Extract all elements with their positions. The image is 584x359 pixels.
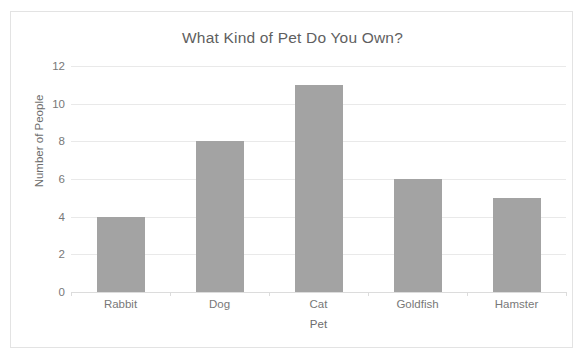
axis-baseline bbox=[71, 292, 566, 293]
plot-area: RabbitDogCatGoldfishHamster bbox=[71, 66, 566, 292]
x-axis-tick-mark bbox=[170, 292, 171, 296]
x-axis-tick-mark bbox=[566, 292, 567, 296]
y-axis-tick-labels: 024681012 bbox=[25, 66, 65, 292]
y-axis-tick-label: 4 bbox=[31, 211, 65, 223]
y-axis-tick-label: 2 bbox=[31, 248, 65, 260]
x-axis-title: Pet bbox=[71, 318, 566, 330]
x-axis-tick-label: Goldfish bbox=[396, 298, 438, 310]
x-axis-tick-mark bbox=[467, 292, 468, 296]
bar bbox=[196, 141, 244, 292]
x-axis-tick-mark bbox=[71, 292, 72, 296]
y-axis-tick-label: 0 bbox=[31, 286, 65, 298]
y-axis-tick-label: 10 bbox=[31, 98, 65, 110]
bar bbox=[394, 179, 442, 292]
x-axis-tick-label: Hamster bbox=[495, 298, 538, 310]
x-axis-tick-label: Cat bbox=[310, 298, 328, 310]
chart-frame: What Kind of Pet Do You Own? Number of P… bbox=[10, 11, 573, 348]
y-axis-tick-label: 12 bbox=[31, 60, 65, 72]
x-axis-tick-label: Dog bbox=[209, 298, 230, 310]
x-axis-tick-mark bbox=[269, 292, 270, 296]
x-axis-tick-mark bbox=[368, 292, 369, 296]
bar bbox=[97, 217, 145, 292]
bar-group: Dog bbox=[170, 66, 269, 292]
bar-group: Rabbit bbox=[71, 66, 170, 292]
bar bbox=[493, 198, 541, 292]
bar-group: Cat bbox=[269, 66, 368, 292]
y-axis-tick-label: 6 bbox=[31, 173, 65, 185]
y-axis-tick-label: 8 bbox=[31, 135, 65, 147]
bar bbox=[295, 85, 343, 292]
chart-title: What Kind of Pet Do You Own? bbox=[11, 29, 574, 47]
bar-group: Hamster bbox=[467, 66, 566, 292]
x-axis-tick-label: Rabbit bbox=[104, 298, 137, 310]
bar-group: Goldfish bbox=[368, 66, 467, 292]
